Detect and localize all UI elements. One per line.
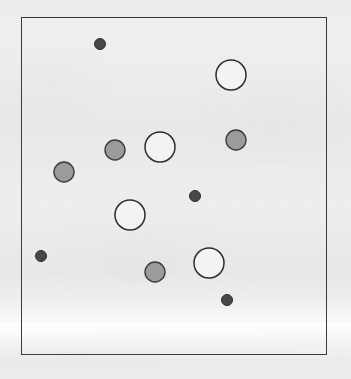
scatter-marker-layer [0,0,351,379]
data-point-large-white-4 [194,248,224,278]
data-point-medium-gray-1 [105,140,125,160]
data-point-large-white-1 [216,60,246,90]
data-point-small-dark-1 [95,39,106,50]
data-point-large-white-3 [115,200,145,230]
data-point-medium-gray-2 [226,130,246,150]
data-point-medium-gray-3 [54,162,74,182]
figure-canvas [0,0,351,379]
data-point-small-dark-3 [36,251,47,262]
data-point-small-dark-4 [222,295,233,306]
data-point-large-white-2 [145,132,175,162]
series-group-large-white [115,60,246,278]
data-point-small-dark-2 [190,191,201,202]
data-point-medium-gray-4 [145,262,165,282]
